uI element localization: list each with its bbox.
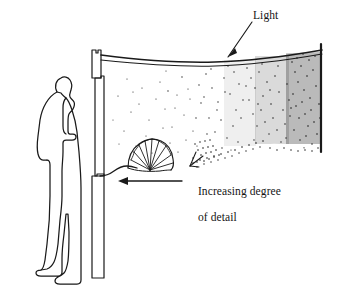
fan-large [128,139,173,171]
stipple-field [113,52,323,154]
increasing-detail-label: Increasing degree of detail [186,172,281,236]
vertical-post [92,50,104,278]
increasing-detail-line-2: of detail [198,211,237,223]
diagram-canvas [0,0,340,291]
increasing-detail-line-1: Increasing degree [198,185,281,197]
floor-edge [100,166,137,176]
detail-leader-arrow [118,177,182,185]
light-label: Light [253,9,278,22]
human-figure [36,77,81,284]
figure-root: Light Increasing degree of detail [0,0,340,291]
fan-small [190,139,220,167]
light-leader-arrow [228,22,252,57]
